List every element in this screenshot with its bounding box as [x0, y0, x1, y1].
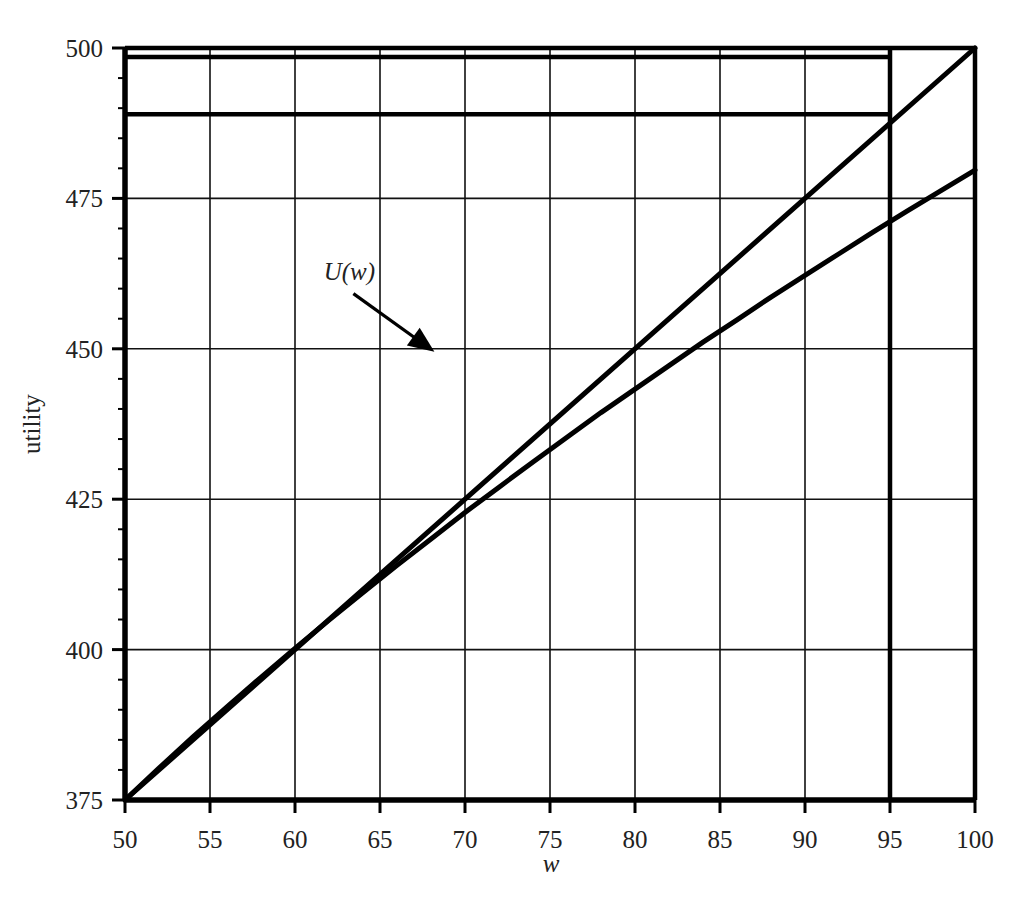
- x-tick-label-65: 65: [368, 826, 393, 853]
- y-tick-label-400: 400: [66, 637, 104, 664]
- x-tick-label-90: 90: [793, 826, 818, 853]
- x-tick-label-80: 80: [623, 826, 648, 853]
- x-tick-label-95: 95: [878, 826, 903, 853]
- chart-figure: 50556065707580859095100 3754004254504755…: [0, 0, 1024, 913]
- y-axis-title: utility: [18, 394, 45, 454]
- u-of-w-label: U(w): [324, 258, 375, 286]
- y-tick-label-500: 500: [66, 35, 104, 62]
- x-tick-label-55: 55: [198, 826, 223, 853]
- x-tick-label-60: 60: [283, 826, 308, 853]
- x-axis-title: w: [543, 850, 560, 877]
- y-tick-label-475: 475: [66, 185, 104, 212]
- y-tick-label-425: 425: [66, 486, 104, 513]
- x-tick-label-100: 100: [956, 826, 994, 853]
- x-tick-label-75: 75: [538, 826, 563, 853]
- x-tick-label-85: 85: [708, 826, 733, 853]
- x-tick-label-70: 70: [453, 826, 478, 853]
- y-tick-label-375: 375: [66, 787, 104, 814]
- utility-chart-svg: 50556065707580859095100 3754004254504755…: [0, 0, 1024, 913]
- y-tick-label-450: 450: [66, 336, 104, 363]
- x-tick-label-50: 50: [113, 826, 138, 853]
